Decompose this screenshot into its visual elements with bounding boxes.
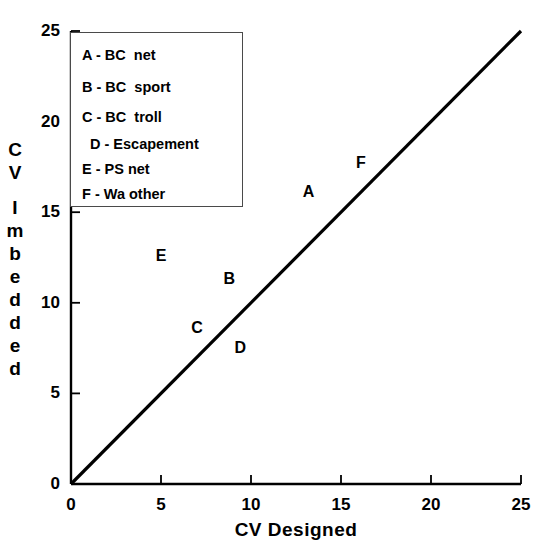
- data-point-E: E: [150, 248, 172, 264]
- data-point-A: A: [298, 184, 320, 200]
- legend-box: A - BC net B - BC sport C - BC troll D -…: [70, 32, 243, 207]
- legend-item-E: E - PS net: [82, 161, 150, 177]
- data-point-C: C: [186, 320, 208, 336]
- legend-item-D: D - Escapement: [90, 136, 199, 152]
- data-point-D: D: [229, 340, 251, 356]
- data-point-F: F: [350, 155, 372, 171]
- legend-item-B: B - BC sport: [82, 79, 171, 95]
- x-axis-title: CV Designed: [71, 519, 521, 541]
- legend-item-A: A - BC net: [82, 47, 156, 63]
- legend-item-F: F - Wa other: [82, 186, 165, 202]
- scatter-plot-figure: C V I m b e d d e d 0 5 10 15 20 25 0 5 …: [0, 0, 535, 552]
- data-point-B: B: [218, 271, 240, 287]
- legend-item-C: C - BC troll: [82, 109, 162, 125]
